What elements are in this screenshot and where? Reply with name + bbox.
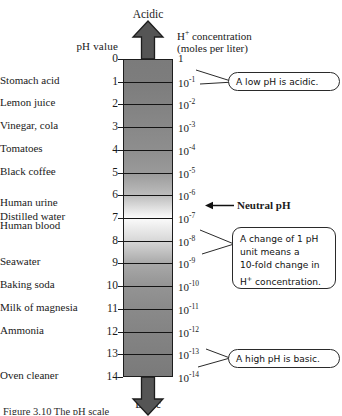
ph-tick-mark: [118, 263, 123, 264]
h-concentration-ph-14: 10-14: [178, 370, 199, 384]
h-concentration-ph-4: 10-4: [178, 143, 195, 157]
ph-tick-mark: [118, 173, 123, 174]
substance-label: Black coffee: [0, 165, 105, 177]
h-concentration-ph-7: 10-7: [178, 211, 195, 225]
h-concentration-header-line2: (moles per liter): [177, 42, 248, 54]
ph-bar-divider-line: [123, 82, 173, 83]
ph-tick-mark: [118, 104, 123, 105]
ph-bar-divider-line: [123, 150, 173, 151]
ph-value-header: pH value: [0, 40, 118, 52]
substance-label: Human urine: [0, 196, 105, 208]
callout-high-ph: A high pH is basic.: [228, 349, 340, 368]
h-concentration-ph-9: 10-9: [178, 256, 195, 270]
substance-label: Stomach acid: [0, 74, 105, 86]
callout-ten-fold-line2: unit means a: [240, 247, 300, 257]
ph-tick-mark: [118, 82, 123, 83]
ph-tick-mark: [118, 218, 123, 219]
neutral-ph-arrow-icon: [205, 200, 235, 211]
figure-caption: Figure 3.10 The pH scale: [3, 406, 339, 415]
h-concentration-ph-11: 10-11: [178, 302, 199, 316]
high-ph-leader-line: [198, 345, 232, 369]
ph-bar-divider-line: [123, 104, 173, 105]
ten-fold-leader-line: [200, 228, 236, 256]
substance-label: Seawater: [0, 255, 105, 267]
h-concentration-ph-6: 10-6: [178, 188, 195, 202]
h-concentration-ph-5: 10-5: [178, 166, 195, 180]
ph-tick-mark: [118, 241, 123, 242]
h-concentration-ph-12: 10-12: [178, 325, 199, 339]
h-concentration-ph-2: 10-2: [178, 97, 195, 111]
substance-label: Oven cleaner: [0, 369, 105, 381]
acidic-arrow-up-icon: [131, 20, 165, 60]
ph-bar-divider-line: [123, 263, 173, 264]
substance-label: Baking soda: [0, 278, 105, 290]
ph-bar-divider-line: [123, 218, 173, 219]
ph-tick-mark: [118, 150, 123, 151]
substance-label: Lemon juice: [0, 96, 105, 108]
ph-tick-mark: [118, 286, 123, 287]
ph-tick-mark: [118, 195, 123, 196]
ph-value-8: 8: [86, 234, 118, 246]
substance-label: Tomatoes: [0, 142, 105, 154]
ph-bar-divider-line: [123, 241, 173, 242]
callout-ten-fold-line1: A change of 1 pH: [240, 234, 318, 244]
ph-bar-divider-line: [123, 309, 173, 310]
h-concentration-header: H+ concentration (moles per liter): [177, 27, 337, 55]
ph-bar-divider-line: [123, 286, 173, 287]
callout-ten-fold-line3: 10-fold change in: [240, 260, 319, 270]
ph-value-13: 13: [86, 347, 118, 359]
ph-tick-mark: [118, 127, 123, 128]
substance-label: Milk of magnesia: [0, 301, 105, 313]
callout-ten-fold: A change of 1 pH unit means a 10-fold ch…: [232, 227, 336, 289]
ph-tick-mark: [118, 309, 123, 310]
h-concentration-ph-3: 10-3: [178, 120, 195, 134]
h-concentration-ph-1: 10-1: [178, 75, 195, 89]
ph-tick-mark: [118, 354, 123, 355]
h-concentration-ph-0: 1: [178, 52, 184, 64]
h-concentration-ph-10: 10-10: [178, 279, 199, 293]
ph-tick-mark: [118, 377, 123, 378]
neutral-ph-label: Neutral pH: [237, 199, 290, 211]
callout-low-ph: A low pH is acidic.: [228, 72, 340, 91]
substance-label: Vinegar, cola: [0, 119, 105, 131]
ph-tick-mark: [118, 332, 123, 333]
ph-bar-divider-line: [123, 354, 173, 355]
ph-value-0: 0: [86, 52, 118, 64]
direction-label-acidic: Acidic: [110, 8, 186, 20]
substance-label: Ammonia: [0, 324, 105, 336]
ph-bar-divider-line: [123, 127, 173, 128]
substance-label: Human blood: [0, 219, 105, 231]
callout-ten-fold-line4: H+ concentration.: [240, 277, 321, 287]
h-concentration-ph-8: 10-8: [178, 234, 195, 248]
h-concentration-header-line1: H+ concentration: [177, 30, 252, 42]
ph-tick-mark: [118, 59, 123, 60]
ph-bar-divider-line: [123, 332, 173, 333]
h-concentration-ph-13: 10-13: [178, 347, 199, 361]
ph-bar-divider-line: [123, 173, 173, 174]
ph-bar-divider-line: [123, 195, 173, 196]
